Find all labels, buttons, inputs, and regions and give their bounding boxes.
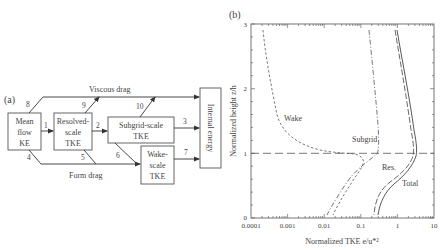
arrow-5 — [84, 150, 96, 164]
total-annotation: Total — [402, 179, 419, 188]
subgrid-curve — [327, 30, 379, 215]
x-tick-5: 10 — [431, 222, 439, 230]
x-tick-4: 1 — [396, 222, 400, 230]
arrow-9 — [85, 97, 99, 113]
form-drag-label: Form drag — [69, 171, 103, 180]
y-axis-label: Normalized height z/h — [229, 85, 238, 157]
path-label-9: 9 — [82, 101, 86, 110]
y-tick-2: 2 — [244, 85, 248, 93]
viscous-drag-arrow-8 — [29, 97, 199, 113]
path-label-4: 4 — [27, 153, 31, 162]
panel-b-label: (b) — [229, 9, 241, 21]
path-label-2: 2 — [96, 121, 100, 130]
y-tick-1: 1 — [244, 150, 248, 158]
y-tick-3: 3 — [244, 21, 248, 29]
wake-text-2: scale — [150, 161, 166, 170]
figure: (a) Mean flow KE Resolved- scale TKE Sub… — [0, 0, 448, 252]
x-tick-0: 0.0001 — [241, 222, 261, 230]
subgrid-text-1: Subgrid-scale — [119, 121, 163, 130]
resolved-text-3: TKE — [65, 139, 81, 148]
internal-energy-text: Internal energy — [206, 104, 215, 153]
x-tick-3: 0.1 — [356, 222, 365, 230]
viscous-drag-label: Viscous drag — [89, 85, 131, 94]
path-label-7: 7 — [184, 148, 188, 157]
path-label-8: 8 — [26, 100, 30, 109]
path-label-10: 10 — [136, 102, 144, 111]
resolved-text-1: Resolved- — [57, 117, 90, 126]
path-label-1: 1 — [44, 121, 48, 130]
x-tick-1: 0.001 — [280, 222, 296, 230]
wake-annotation: Wake — [284, 114, 302, 123]
mean-flow-text-2: flow — [17, 128, 32, 137]
path-label-6: 6 — [116, 151, 120, 160]
panel-b-tke-profile-chart: (b) — [229, 9, 438, 246]
x-tick-2: 0.01 — [318, 222, 331, 230]
mean-flow-text-3: KE — [19, 139, 30, 148]
res-annotation: Res. — [382, 163, 396, 172]
path-label-3: 3 — [183, 117, 187, 126]
subgrid-text-2: TKE — [133, 132, 149, 141]
y-tick-0: 0 — [244, 214, 248, 222]
resolved-text-2: scale — [65, 128, 81, 137]
panel-a-energy-flow-diagram: (a) Mean flow KE Resolved- scale TKE Sub… — [4, 85, 221, 184]
x-axis-label: Normalized TKE e/u*² — [305, 237, 379, 246]
subgrid-annotation: Subgrid — [352, 135, 377, 144]
panel-a-label: (a) — [4, 94, 15, 106]
wake-curve — [263, 30, 363, 215]
wake-text-1: Wake- — [147, 150, 168, 159]
path-label-5: 5 — [81, 153, 85, 162]
wake-text-3: TKE — [150, 172, 166, 181]
mean-flow-text-1: Mean — [15, 117, 33, 126]
